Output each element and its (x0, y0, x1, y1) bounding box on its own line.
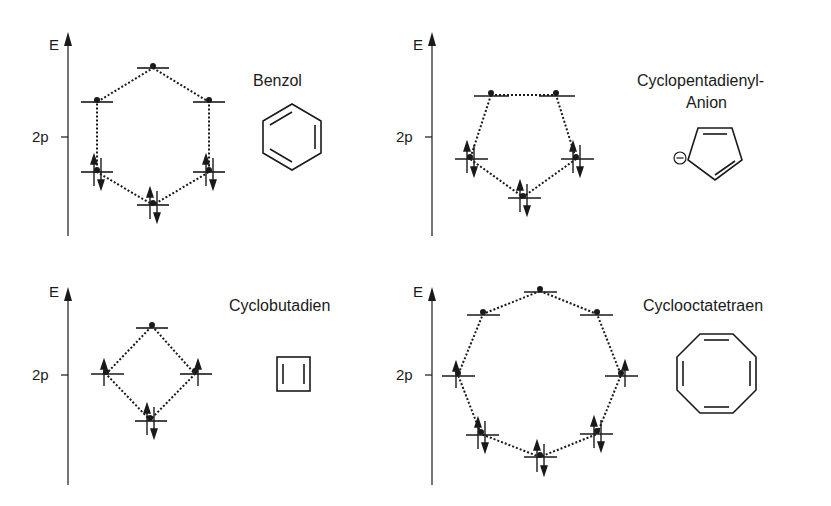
energy-axis: E 2p (32, 32, 72, 236)
orbital-levels (442, 292, 638, 457)
cyclobutadiene-structure-icon (277, 357, 310, 391)
panel-benzol: E 2p Benzol (32, 32, 321, 236)
2p-reference-label: 2p (396, 128, 413, 145)
electron-icons (101, 360, 201, 438)
mo-diagram-canvas: E 2p Benzol (0, 0, 831, 506)
electron-pair-icons (464, 142, 583, 215)
energy-axis: E 2p (396, 283, 436, 485)
axis-arrow-icon (64, 287, 72, 301)
benzene-structure-icon (263, 104, 321, 170)
energy-axis: E 2p (32, 283, 72, 485)
anion-charge-icon (674, 152, 686, 164)
axis-arrow-icon (428, 287, 436, 301)
2p-reference-label: 2p (396, 366, 413, 383)
panel-cyclopentadienyl-anion: E 2p Cyclopentadienyl- Anion (396, 32, 764, 236)
molecule-title: Cyclooctatetraen (643, 297, 763, 314)
energy-axis-label: E (49, 36, 59, 53)
2p-reference-label: 2p (32, 366, 49, 383)
panel-cyclobutadien: E 2p Cyclobutadien (32, 283, 330, 485)
orbital-centers (455, 286, 624, 458)
orbital-connectors (106, 326, 195, 420)
energy-axis: E 2p (396, 32, 436, 236)
molecule-title: Benzol (253, 72, 302, 89)
orbital-centers (103, 322, 198, 421)
molecule-title: Cyclopentadienyl- (637, 72, 764, 89)
energy-axis-label: E (413, 36, 423, 53)
energy-axis-label: E (49, 283, 59, 300)
axis-arrow-icon (64, 32, 72, 46)
cyclooctatetraene-structure-icon (677, 334, 756, 413)
cyclopentadienyl-structure-icon (688, 128, 742, 180)
orbital-levels (91, 328, 212, 421)
molecule-title-line2: Anion (686, 94, 727, 111)
orbital-connectors (97, 68, 209, 205)
axis-arrow-icon (428, 32, 436, 46)
energy-axis-label: E (413, 283, 423, 300)
orbital-centers (467, 90, 579, 199)
orbital-centers (94, 63, 212, 206)
electron-pair-icons (91, 155, 216, 222)
panel-cyclooctatetraen: E 2p Cyclooctatetra (396, 283, 763, 485)
molecule-title: Cyclobutadien (229, 297, 330, 314)
electron-pair-icon (534, 441, 547, 475)
orbital-connectors (470, 95, 576, 197)
2p-reference-label: 2p (32, 128, 49, 145)
